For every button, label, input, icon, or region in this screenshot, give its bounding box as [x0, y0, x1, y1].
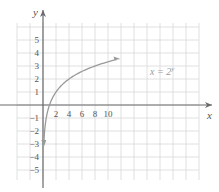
- svg-text:2: 2: [54, 109, 59, 119]
- grid-lines: [17, 23, 199, 180]
- svg-text:−2: −2: [29, 126, 39, 136]
- x-axis-label: x: [206, 109, 212, 121]
- svg-text:3: 3: [35, 61, 40, 71]
- svg-text:2: 2: [35, 74, 40, 84]
- curve-label: x = 2y: [149, 65, 175, 77]
- svg-text:−3: −3: [29, 139, 39, 149]
- svg-text:1: 1: [35, 87, 40, 97]
- svg-text:4: 4: [67, 109, 72, 119]
- curve-arrow-right: [114, 57, 121, 61]
- svg-text:4: 4: [35, 48, 40, 58]
- svg-text:6: 6: [80, 109, 85, 119]
- y-axis-label: y: [32, 6, 38, 18]
- svg-text:5: 5: [35, 35, 40, 45]
- svg-text:−5: −5: [29, 165, 39, 175]
- svg-text:−1: −1: [29, 113, 39, 123]
- svg-text:10: 10: [104, 109, 114, 119]
- graph: 246810−5−4−3−2−112345 x y x = 2y: [0, 0, 219, 192]
- curve-arrow-down: [41, 140, 46, 147]
- svg-text:−4: −4: [29, 152, 39, 162]
- svg-text:8: 8: [93, 109, 98, 119]
